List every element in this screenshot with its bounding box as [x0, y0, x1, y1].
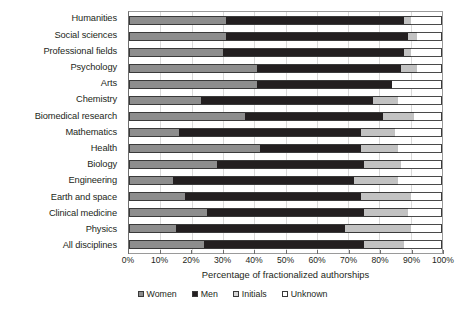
x-tick-mark	[254, 250, 255, 254]
legend-item-unknown: Unknown	[282, 289, 328, 299]
y-axis-label: Engineering	[0, 173, 122, 189]
bar-segment-initials	[373, 96, 398, 105]
bar-row	[129, 141, 442, 157]
bar-segment-initials	[364, 240, 405, 249]
x-tick-label: 100%	[432, 255, 454, 265]
x-tick-label: 90%	[403, 255, 420, 265]
bar-segment-unknown	[411, 224, 442, 233]
legend-item-men: Men	[192, 289, 218, 299]
y-axis-label: Psychology	[0, 60, 122, 76]
bar-segment-women	[129, 128, 179, 137]
stacked-bar-chart: HumanitiesSocial sciencesProfessional fi…	[0, 0, 465, 312]
stacked-bar	[129, 32, 442, 41]
bar-segment-unknown	[401, 160, 442, 169]
legend-swatch-men-icon	[192, 291, 198, 297]
y-axis-label: Biomedical research	[0, 108, 122, 124]
bar-row	[129, 124, 442, 140]
y-axis-label: Physics	[0, 222, 122, 238]
stacked-bar	[129, 16, 442, 25]
stacked-bar	[129, 112, 442, 121]
bar-segment-unknown	[417, 64, 442, 73]
x-tick-label: 50%	[277, 255, 294, 265]
bar-row	[129, 92, 442, 108]
legend-label: Women	[147, 289, 177, 299]
y-axis-label: Health	[0, 141, 122, 157]
bar-segment-initials	[401, 64, 417, 73]
bar-row	[129, 189, 442, 205]
bar-segment-initials	[361, 192, 411, 201]
bar-segment-unknown	[411, 16, 442, 25]
bar-segment-unknown	[398, 176, 442, 185]
bar-series-container	[129, 12, 442, 253]
bar-row	[129, 60, 442, 76]
legend-label: Initials	[242, 289, 267, 299]
stacked-bar	[129, 160, 442, 169]
y-axis-label: Chemistry	[0, 92, 122, 108]
stacked-bar	[129, 96, 442, 105]
bar-segment-initials	[364, 208, 408, 217]
bar-segment-men	[217, 160, 364, 169]
bar-segment-women	[129, 224, 176, 233]
bar-segment-men	[179, 128, 361, 137]
x-tick-label: 20%	[182, 255, 199, 265]
bar-segment-men	[176, 224, 345, 233]
legend-item-women: Women	[138, 289, 177, 299]
bar-segment-initials	[361, 144, 399, 153]
bar-segment-initials	[364, 160, 402, 169]
bar-segment-unknown	[398, 144, 442, 153]
bar-segment-women	[129, 176, 173, 185]
bar-segment-women	[129, 96, 201, 105]
bar-segment-unknown	[411, 192, 442, 201]
x-tick-mark	[380, 250, 381, 254]
bar-row	[129, 157, 442, 173]
bar-row	[129, 76, 442, 92]
y-axis-category-labels: HumanitiesSocial sciencesProfessional fi…	[0, 11, 122, 254]
bar-segment-men	[226, 32, 408, 41]
stacked-bar	[129, 80, 442, 89]
bar-row	[129, 28, 442, 44]
bar-segment-women	[129, 16, 226, 25]
y-axis-label: All disciplines	[0, 238, 122, 254]
bar-segment-unknown	[398, 96, 442, 105]
bar-segment-women	[129, 144, 260, 153]
bar-segment-initials	[345, 224, 411, 233]
x-tick-label: 70%	[340, 255, 357, 265]
legend-swatch-women-icon	[138, 291, 144, 297]
x-tick-mark	[223, 250, 224, 254]
bar-row	[129, 12, 442, 28]
bar-segment-unknown	[392, 80, 442, 89]
bar-segment-men	[257, 64, 401, 73]
x-tick-mark	[191, 250, 192, 254]
bar-segment-unknown	[417, 32, 442, 41]
x-axis-title: Percentage of fractionalized authorships	[128, 269, 443, 280]
x-tick-mark	[128, 250, 129, 254]
y-axis-label: Clinical medicine	[0, 205, 122, 221]
x-tick-label: 40%	[245, 255, 262, 265]
x-tick-mark	[443, 250, 444, 254]
bar-segment-men	[226, 16, 404, 25]
stacked-bar	[129, 224, 442, 233]
stacked-bar	[129, 192, 442, 201]
x-axis-tick-labels: 0%10%20%30%40%50%60%70%80%90%100%	[128, 255, 443, 268]
bar-segment-men	[204, 240, 364, 249]
bar-segment-unknown	[404, 240, 442, 249]
y-axis-label: Earth and space	[0, 189, 122, 205]
bar-segment-women	[129, 160, 217, 169]
bar-segment-initials	[408, 32, 417, 41]
bar-segment-unknown	[395, 128, 442, 137]
bar-segment-women	[129, 64, 257, 73]
y-axis-label: Professional fields	[0, 43, 122, 59]
stacked-bar	[129, 64, 442, 73]
bar-segment-women	[129, 112, 245, 121]
x-tick-mark	[412, 250, 413, 254]
x-tick-mark	[286, 250, 287, 254]
y-axis-label: Mathematics	[0, 124, 122, 140]
bar-segment-women	[129, 192, 185, 201]
bar-segment-women	[129, 208, 207, 217]
stacked-bar	[129, 128, 442, 137]
bar-segment-women	[129, 80, 257, 89]
bar-segment-initials	[361, 128, 395, 137]
bar-segment-men	[257, 80, 392, 89]
bar-row	[129, 44, 442, 60]
bar-segment-unknown	[411, 48, 442, 57]
